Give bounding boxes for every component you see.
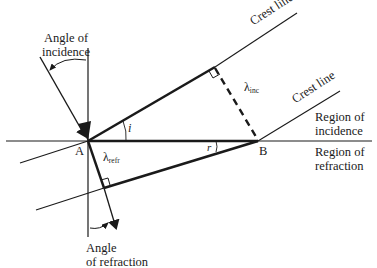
point-b-label: B	[259, 144, 267, 158]
region-incidence-line1: Region of	[315, 110, 365, 124]
region-of-refraction-label: Region of refraction	[315, 145, 365, 173]
refracted-crest-line	[36, 188, 104, 210]
lambda-refr-subscript: refr	[109, 156, 120, 165]
lambda-inc-label: λinc	[244, 80, 259, 98]
angle-of-refraction-label: Angle of refraction	[86, 241, 148, 268]
angle-i-label: i	[128, 121, 131, 135]
lambda-inc-subscript: inc	[250, 86, 259, 95]
angle-of-refraction-arc	[90, 223, 108, 228]
refraction-diagram: Angle of incidence Crest line λinc Crest…	[0, 0, 377, 268]
angle-r-arc	[216, 141, 217, 152]
refracted-ray	[104, 188, 116, 228]
angle-of-refraction-line1: Angle	[86, 241, 148, 255]
lambda-refr-label: λrefr	[103, 150, 120, 168]
lambda-inc-dashed	[215, 68, 258, 140]
region-incidence-line2: incidence	[315, 124, 365, 138]
angle-r-label: r	[207, 140, 211, 154]
point-a-label: A	[75, 144, 84, 158]
angle-of-incidence-line1: Angle of	[38, 31, 94, 45]
angle-of-incidence-label: Angle of incidence	[38, 31, 94, 59]
angle-of-refraction-line2: of refraction	[86, 255, 148, 268]
region-refraction-line2: refraction	[315, 159, 365, 173]
upper-crest-thick	[88, 67, 215, 141]
refracted-ray-thick	[88, 141, 104, 188]
angle-of-incidence-line2: incidence	[38, 45, 94, 59]
angle-i-arc	[123, 121, 126, 141]
angle-of-incidence-arc	[50, 59, 86, 70]
incident-arrowhead	[78, 121, 91, 141]
region-of-incidence-label: Region of incidence	[315, 110, 365, 138]
region-refraction-line1: Region of	[315, 145, 365, 159]
refracted-crest-thick	[104, 141, 258, 188]
